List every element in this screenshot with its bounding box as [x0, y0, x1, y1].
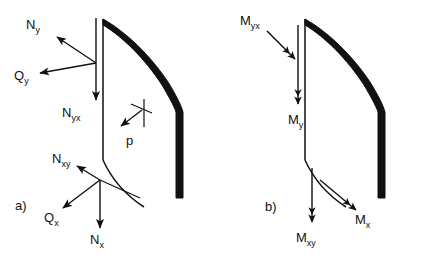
panel-label-a: a) — [15, 198, 27, 213]
panel-label-b: b) — [265, 199, 277, 214]
label-p: p — [126, 133, 133, 148]
figure-canvas: Ny Qy Nyx p Nxy Qx Nx a) Myx M — [0, 0, 433, 267]
shell-force-moment-figure: Ny Qy Nyx p Nxy Qx Nx a) Myx M — [0, 0, 433, 267]
